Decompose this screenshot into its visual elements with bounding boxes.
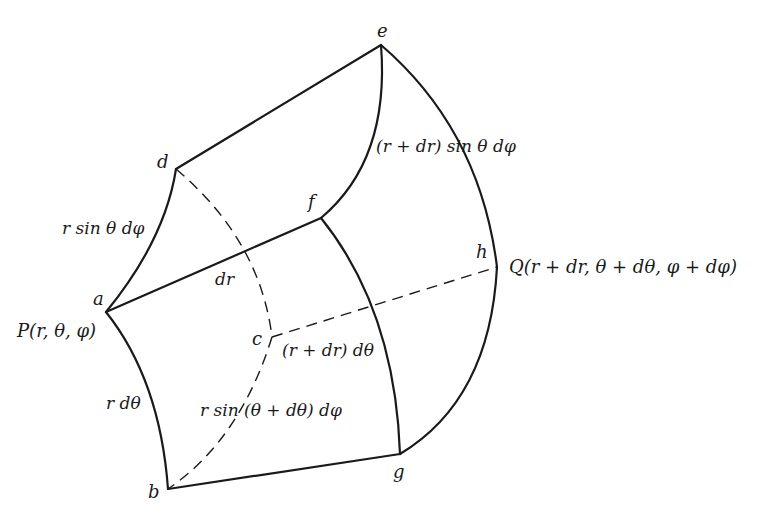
edge-a-d xyxy=(106,169,176,312)
edge-f-e xyxy=(321,45,382,218)
edge-g-h xyxy=(400,267,497,454)
hidden-edge-c-h xyxy=(272,267,497,337)
edge-fe-length-label: (r + dr) sin θ dφ xyxy=(376,138,516,155)
edge-ad-length-label: r sin θ dφ xyxy=(62,220,144,237)
edge-d-e xyxy=(176,45,381,169)
vertex-label-a: a xyxy=(93,290,104,308)
vertex-label-g: g xyxy=(393,463,405,481)
vertex-label-e: e xyxy=(377,22,388,40)
vertex-label-f: f xyxy=(308,193,315,211)
vertex-label-d: d xyxy=(157,153,169,171)
hidden-edge-d-c xyxy=(176,169,272,337)
vertex-label-c: c xyxy=(252,330,262,348)
point-p-label: P(r, θ, φ) xyxy=(17,322,96,340)
edge-ab-length-label: r dθ xyxy=(106,395,141,412)
edge-fg-length-label: (r + dr) dθ xyxy=(282,342,374,359)
vertex-label-b: b xyxy=(148,483,160,501)
point-q-label: Q(r + dr, θ + dθ, φ + dφ) xyxy=(509,258,737,276)
edge-af-length-label: dr xyxy=(215,271,234,288)
vertex-label-h: h xyxy=(476,243,488,261)
edge-e-h xyxy=(381,45,497,267)
edge-b-g xyxy=(168,454,400,489)
edge-bc-length-label: r sin (θ + dθ) dφ xyxy=(200,402,342,419)
